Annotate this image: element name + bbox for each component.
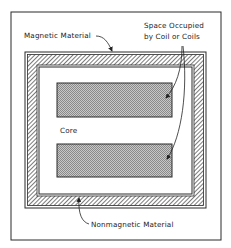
label-magnetic-material: Magnetic Material — [24, 31, 91, 40]
magnetic-core-diagram: Magnetic Material Space Occupied by Coil… — [0, 0, 231, 248]
coil-space-lower — [57, 144, 172, 177]
coil-space-upper — [57, 83, 172, 117]
label-space-occupied-line2: by Coil or Coils — [144, 32, 200, 41]
label-space-occupied-line1: Space Occupied — [144, 21, 204, 30]
label-core: Core — [60, 126, 78, 135]
label-nonmagnetic-material: Nonmagnetic Material — [91, 220, 174, 229]
